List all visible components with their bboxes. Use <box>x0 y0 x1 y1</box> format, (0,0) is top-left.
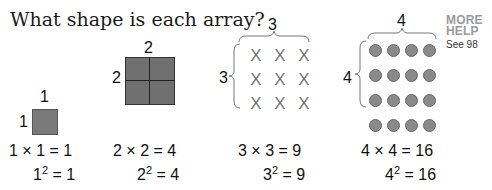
more-help-line2: HELP <box>446 26 483 37</box>
x-mark-icon: X <box>244 92 268 116</box>
product-equation: 2 × 2 = 4 <box>113 142 176 160</box>
x-mark-icon: X <box>244 68 268 92</box>
page-title: What shape is each array? <box>10 8 265 30</box>
dot-icon <box>405 69 418 82</box>
side-brace-icon <box>228 43 242 109</box>
dot-array-4x4 <box>366 38 438 138</box>
top-brace-icon <box>238 30 310 44</box>
array-top-label: 1 <box>40 88 49 106</box>
square-equation: 42 = 16 <box>385 164 436 184</box>
more-help-callout: MORE HELP See 98 <box>446 15 483 50</box>
array-side-label: 4 <box>343 69 352 87</box>
product-equation: 1 × 1 = 1 <box>9 142 72 160</box>
dot-icon <box>387 69 400 82</box>
dot-icon <box>423 69 436 82</box>
dot-icon <box>369 69 382 82</box>
dot-icon <box>405 94 418 107</box>
array-top-label: 2 <box>144 39 153 57</box>
dot-icon <box>423 94 436 107</box>
dot-icon <box>369 119 382 132</box>
dot-icon <box>369 94 382 107</box>
dot-icon <box>423 44 436 57</box>
array-side-label: 2 <box>112 69 121 87</box>
x-mark-icon: X <box>268 44 292 68</box>
dot-icon <box>387 119 400 132</box>
x-mark-icon: X <box>268 92 292 116</box>
square-grid-2x2 <box>125 57 175 105</box>
dot-icon <box>423 119 436 132</box>
dot-icon <box>405 119 418 132</box>
product-equation: 3 × 3 = 9 <box>238 142 301 160</box>
dot-icon <box>369 44 382 57</box>
dot-icon <box>387 94 400 107</box>
array-side-label: 3 <box>219 69 228 87</box>
dot-icon <box>405 44 418 57</box>
square-equation: 22 = 4 <box>137 164 179 184</box>
x-mark-icon: X <box>244 44 268 68</box>
see-page-ref: See 98 <box>446 39 483 50</box>
square-equation: 12 = 1 <box>33 164 75 184</box>
dot-icon <box>387 44 400 57</box>
array-side-label: 1 <box>19 113 28 131</box>
unit-square <box>32 109 58 135</box>
x-mark-icon: X <box>292 68 316 92</box>
square-equation: 32 = 9 <box>263 164 305 184</box>
x-mark-icon: X <box>268 68 292 92</box>
x-mark-icon: X <box>292 92 316 116</box>
x-mark-icon: X <box>292 44 316 68</box>
product-equation: 4 × 4 = 16 <box>361 142 433 160</box>
x-array-3x3: X X X X X X X X X <box>244 44 316 116</box>
